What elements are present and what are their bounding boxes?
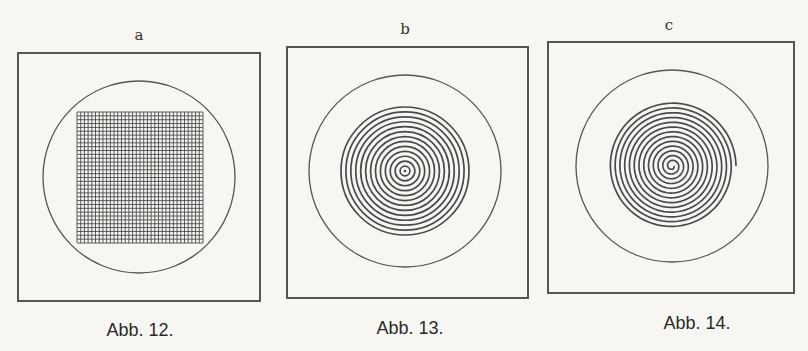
center-dot xyxy=(404,170,407,173)
figure-a-caption: Abb. 12. xyxy=(106,320,173,340)
figure-c-letter: c xyxy=(665,16,673,34)
figure-plate: a Abb. 12. b Abb. 13. c Abb. 14. xyxy=(0,0,808,351)
figure-b-frame xyxy=(287,47,528,298)
figure-c-caption: Abb. 14. xyxy=(663,313,730,333)
figure-b-rings xyxy=(341,107,469,235)
figure-a: a Abb. 12. xyxy=(18,26,260,340)
figure-a-frame xyxy=(18,53,260,301)
figure-c-frame xyxy=(548,42,794,293)
spiral-line xyxy=(610,103,736,226)
figure-b-caption: Abb. 13. xyxy=(376,318,443,338)
figure-a-letter: a xyxy=(135,26,144,44)
figure-c-outer-circle xyxy=(576,70,768,262)
figure-c: c Abb. 14. xyxy=(548,16,794,333)
figure-b-letter: b xyxy=(400,20,410,38)
figure-a-outer-circle xyxy=(43,81,235,273)
figure-c-spiral xyxy=(610,103,736,226)
figure-a-grid xyxy=(77,112,203,243)
figure-b: b Abb. 13. xyxy=(287,20,528,338)
